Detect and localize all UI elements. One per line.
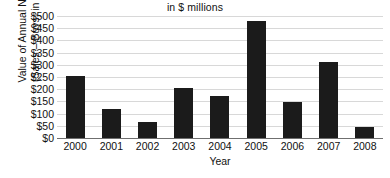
bar-slot xyxy=(347,16,383,138)
y-tick-label: $200 xyxy=(31,83,54,95)
y-tick-label: $0 xyxy=(42,132,54,144)
y-tick-label: $350 xyxy=(31,47,54,59)
x-tick-label-2006: 2006 xyxy=(274,140,310,154)
y-tick-label: $400 xyxy=(31,34,54,46)
bar-slot xyxy=(166,16,202,138)
y-tick-label: $500 xyxy=(31,10,54,22)
x-axis-tick-labels: 200020012002200320042005200620072008 xyxy=(57,140,383,154)
y-tick-label: $300 xyxy=(31,59,54,71)
x-tick-label-2000: 2000 xyxy=(57,140,93,154)
axis-baseline xyxy=(57,138,383,139)
y-axis-tick-labels: $0$50$100$150$200$250$300$350$400$450$50… xyxy=(10,16,54,138)
bar-chart: in $ millions Value of Annual Net Trades… xyxy=(0,0,390,178)
x-tick-label-2001: 2001 xyxy=(93,140,129,154)
y-tick-label: $50 xyxy=(36,120,54,132)
x-tick-label-2007: 2007 xyxy=(311,140,347,154)
bar-slot xyxy=(311,16,347,138)
bar-slot xyxy=(274,16,310,138)
y-tick-label: $450 xyxy=(31,22,54,34)
y-tick-label: $150 xyxy=(31,95,54,107)
bar-2003 xyxy=(174,88,193,138)
y-tick-label: $250 xyxy=(31,71,54,83)
bar-2004 xyxy=(210,96,229,138)
bar-2005 xyxy=(247,21,266,138)
x-tick-label-2004: 2004 xyxy=(202,140,238,154)
bar-slot xyxy=(93,16,129,138)
x-axis-label: Year xyxy=(57,155,383,167)
chart-title: in $ millions xyxy=(0,1,390,13)
x-tick-label-2008: 2008 xyxy=(347,140,383,154)
bar-2007 xyxy=(319,62,338,138)
bar-slot xyxy=(57,16,93,138)
plot-area xyxy=(57,16,383,138)
bar-slot xyxy=(202,16,238,138)
bar-slot xyxy=(129,16,165,138)
bar-series xyxy=(57,16,383,138)
x-tick-label-2003: 2003 xyxy=(166,140,202,154)
bar-slot xyxy=(238,16,274,138)
bar-2002 xyxy=(138,122,157,138)
bar-2001 xyxy=(102,109,121,138)
y-tick-label: $100 xyxy=(31,108,54,120)
x-tick-label-2002: 2002 xyxy=(129,140,165,154)
bar-2008 xyxy=(355,127,374,138)
bar-2000 xyxy=(66,76,85,138)
bar-2006 xyxy=(283,102,302,138)
x-tick-label-2005: 2005 xyxy=(238,140,274,154)
